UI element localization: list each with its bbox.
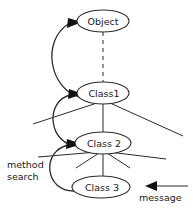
node-object[interactable]: Object xyxy=(77,10,129,32)
edge-class2-fan-far-right xyxy=(109,152,166,159)
node-class3-label: Class 3 xyxy=(85,182,119,193)
node-class1-label: Class1 xyxy=(88,88,119,99)
node-class3[interactable]: Class 3 xyxy=(72,176,130,198)
flow-class1-to-object xyxy=(52,23,80,97)
arrowhead-message xyxy=(145,181,157,191)
flow-class2-to-class1 xyxy=(53,95,79,146)
method-search-diagram: Object Class1 Class 2 Class 3 method sea… xyxy=(0,0,193,208)
edge-class1-fan-right xyxy=(110,103,183,136)
edge-class1-fan-left xyxy=(33,103,97,124)
message-label: message xyxy=(139,192,182,203)
edge-class2-fan-right xyxy=(107,153,130,168)
node-object-label: Object xyxy=(88,16,119,27)
node-class2-label: Class 2 xyxy=(87,138,121,149)
edge-class2-fan-left xyxy=(76,153,99,168)
annotation-method-search: method search xyxy=(7,159,44,182)
flow-class3-to-class2 xyxy=(50,145,75,191)
method-search-line2: search xyxy=(7,171,39,182)
node-class2[interactable]: Class 2 xyxy=(75,132,131,154)
diagram-canvas: Object Class1 Class 2 Class 3 method sea… xyxy=(0,0,193,208)
node-class1[interactable]: Class1 xyxy=(77,82,129,104)
method-search-line1: method xyxy=(7,159,44,170)
